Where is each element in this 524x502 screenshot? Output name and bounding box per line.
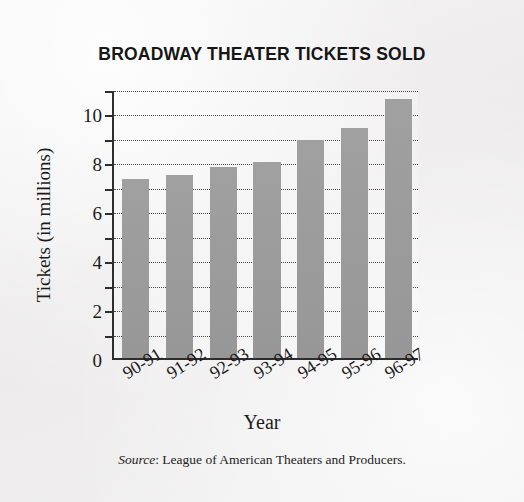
y-axis-tick-label: 0 — [93, 351, 103, 370]
chart-title: BROADWAY THEATER TICKETS SOLD — [0, 44, 524, 65]
y-axis-tick — [105, 213, 114, 215]
y-axis-tick — [105, 189, 114, 191]
y-axis-tick — [105, 164, 114, 166]
gridline — [114, 91, 418, 92]
y-axis-tick — [105, 262, 114, 264]
bar — [122, 179, 149, 358]
y-axis-tick — [105, 238, 114, 240]
bar — [341, 128, 368, 358]
source-label: Source — [118, 452, 155, 467]
y-axis-title: Tickets (in millions) — [33, 148, 55, 302]
y-axis-tick — [105, 311, 114, 313]
x-axis-title: Year — [0, 411, 524, 434]
y-axis-tick-label: 2 — [93, 302, 103, 321]
source-note: Source: League of American Theaters and … — [0, 452, 524, 468]
source-text: League of American Theaters and Producer… — [162, 452, 405, 467]
gridline — [114, 140, 418, 141]
bar — [253, 162, 280, 358]
y-axis-tick-label: 4 — [93, 253, 103, 272]
y-axis-tick-label: 8 — [93, 155, 103, 174]
bar — [297, 140, 324, 358]
bar — [166, 175, 193, 358]
y-axis-tick — [105, 140, 114, 142]
bar-chart-figure: BROADWAY THEATER TICKETS SOLD Tickets (i… — [0, 0, 524, 502]
y-axis-tick — [105, 336, 114, 338]
y-axis-tick — [105, 91, 114, 93]
bar — [385, 99, 412, 358]
bar — [210, 167, 237, 358]
plot-area: 0246810 — [112, 91, 418, 360]
y-axis-tick-label: 10 — [83, 106, 102, 125]
y-axis-tick — [105, 115, 114, 117]
y-axis-tick-label: 6 — [93, 204, 103, 223]
gridline — [114, 115, 418, 116]
y-axis-tick — [105, 287, 114, 289]
